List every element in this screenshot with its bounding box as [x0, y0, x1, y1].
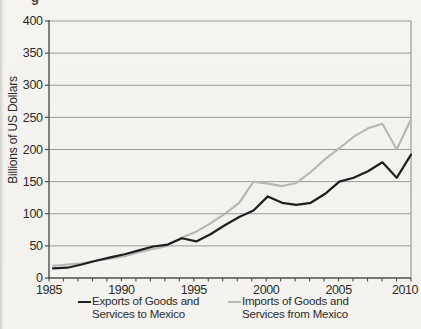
- series-line-imports: [53, 119, 411, 265]
- legend-item-exports: Exports of Goods and Services to Mexico: [78, 295, 199, 321]
- exports-line-swatch: [78, 301, 91, 303]
- series-line-exports: [53, 155, 411, 269]
- chart-legend: Exports of Goods and Services to Mexico …: [0, 295, 421, 329]
- y-tick-label-400: 400: [23, 14, 43, 28]
- mexico-trade-line-chart: 0501001502002503003504001985199019952000…: [0, 0, 421, 329]
- imports-legend-line2: Services from Mexico: [242, 308, 348, 320]
- y-tick-label-200: 200: [23, 143, 43, 157]
- exports-legend-line1: Exports of Goods and: [92, 295, 199, 307]
- imports-line-swatch: [228, 301, 241, 303]
- y-tick-label-250: 250: [23, 111, 43, 125]
- y-tick-label-150: 150: [23, 175, 43, 189]
- y-tick-label-300: 300: [23, 78, 43, 92]
- legend-item-imports: Imports of Goods and Services from Mexic…: [228, 295, 349, 321]
- y-tick-label-350: 350: [23, 46, 43, 60]
- imports-legend-label: Imports of Goods and Services from Mexic…: [242, 295, 349, 321]
- y-tick-label-100: 100: [23, 207, 43, 221]
- exports-legend-label: Exports of Goods and Services to Mexico: [92, 295, 199, 321]
- y-tick-label-50: 50: [29, 239, 43, 253]
- y-axis-title: Billions of US Dollars: [6, 76, 20, 184]
- imports-legend-line1: Imports of Goods and: [242, 295, 349, 307]
- scanned-trade-chart-page: g 05010015020025030035040019851990199520…: [0, 0, 421, 329]
- exports-legend-line2: Services to Mexico: [92, 308, 185, 320]
